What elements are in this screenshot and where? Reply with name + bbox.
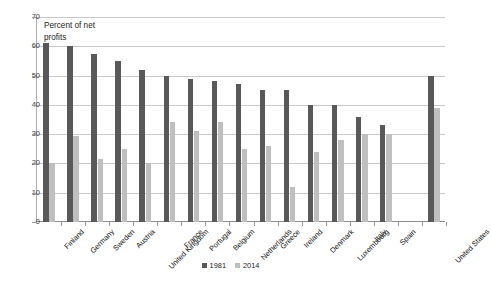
bar-2014 <box>314 152 319 222</box>
y-axis-tick-label: 20 <box>14 159 40 167</box>
x-axis-tick-mark <box>133 222 134 226</box>
x-axis-tick-mark <box>422 222 423 226</box>
y-axis-tick-mark <box>32 163 36 164</box>
x-axis-tick-mark <box>254 222 255 226</box>
x-axis-label-italy: Italy <box>372 228 387 243</box>
bar-1981 <box>67 46 72 222</box>
bar-1981 <box>236 84 241 222</box>
bars-layer <box>37 17 445 222</box>
x-axis-tick-mark <box>157 222 158 226</box>
bar-group <box>205 17 229 222</box>
bar-group <box>37 17 61 222</box>
y-axis-tick-label: 70 <box>14 13 40 21</box>
y-axis-tick-mark <box>32 105 36 106</box>
bar-group <box>254 17 278 222</box>
bar-group <box>422 17 446 222</box>
legend-swatch-icon <box>235 263 240 268</box>
y-axis-tick-label: 30 <box>14 130 40 138</box>
y-axis-tick-label: 60 <box>14 42 40 50</box>
x-axis-tick-mark <box>374 222 375 226</box>
x-axis-label-luxembourg: Luxembourg <box>357 228 391 262</box>
x-axis-tick-mark <box>109 222 110 226</box>
y-axis-tick-mark <box>32 222 36 223</box>
bar-group <box>85 17 109 222</box>
bar-1981 <box>139 70 144 222</box>
x-axis-label-austria: Austria <box>135 228 157 250</box>
legend-item-1981: 1981 <box>202 262 226 269</box>
bar-2014 <box>386 134 391 222</box>
x-axis-label-netherlands: Netherlands <box>260 228 293 261</box>
x-axis-tick-mark <box>181 222 182 226</box>
x-axis-label-finland: Finland <box>63 228 85 250</box>
x-axis-tick-mark <box>446 222 447 226</box>
x-axis-tick-mark <box>398 222 399 226</box>
x-axis-tick-mark <box>350 222 351 226</box>
bar-2014 <box>434 108 439 222</box>
y-axis-tick-mark <box>32 193 36 194</box>
bar-2014 <box>266 146 271 222</box>
y-axis-tick-label: 50 <box>14 72 40 80</box>
bar-1981 <box>260 90 265 222</box>
bar-1981 <box>380 125 385 222</box>
bar-group <box>61 17 85 222</box>
legend: 19812014 <box>0 262 461 269</box>
y-axis-tick-mark <box>32 76 36 77</box>
bar-1981 <box>91 54 96 222</box>
x-axis-tick-mark <box>205 222 206 226</box>
x-axis-label-belgium: Belgium <box>232 228 256 252</box>
bar-1981 <box>284 90 289 222</box>
x-axis-label-denmark: Denmark <box>329 228 355 254</box>
bar-group <box>278 17 302 222</box>
legend-label: 2014 <box>243 262 259 269</box>
bar-group <box>350 17 374 222</box>
bar-1981 <box>188 79 193 223</box>
x-axis-label-united-states: United States <box>454 228 491 265</box>
bar-2014 <box>338 140 343 222</box>
x-axis-label-germany: Germany <box>89 228 116 255</box>
bar-2014 <box>242 149 247 222</box>
bar-2014 <box>49 163 54 222</box>
bar-group <box>326 17 350 222</box>
x-axis-tick-mark <box>302 222 303 226</box>
bar-2014 <box>194 131 199 222</box>
bar-1981 <box>356 117 361 222</box>
bar-2014 <box>146 163 151 222</box>
bar-1981 <box>212 81 217 222</box>
bar-group <box>398 17 422 222</box>
y-axis-tick-mark <box>32 46 36 47</box>
bar-group <box>157 17 181 222</box>
bar-1981 <box>332 105 337 222</box>
bar-group <box>181 17 205 222</box>
legend-swatch-icon <box>202 263 207 268</box>
bar-2014 <box>122 149 127 222</box>
y-axis-tick-label: 40 <box>14 101 40 109</box>
x-axis-label-spain: Spain <box>398 228 417 247</box>
bar-1981 <box>164 76 169 222</box>
bar-group <box>374 17 398 222</box>
x-axis-tick-mark <box>85 222 86 226</box>
bar-2014 <box>73 136 78 222</box>
bar-1981 <box>428 76 433 222</box>
x-axis-label-sweden: Sweden <box>112 228 136 252</box>
bar-2014 <box>170 122 175 222</box>
bar-2014 <box>362 134 367 222</box>
bar-2014 <box>290 187 295 222</box>
y-axis-tick-label: 0 <box>14 218 40 226</box>
x-axis-label-france: France <box>183 228 205 250</box>
bar-2014 <box>98 159 103 222</box>
legend-label: 1981 <box>210 262 226 269</box>
x-axis-tick-mark <box>229 222 230 226</box>
y-axis-tick-label: 10 <box>14 189 40 197</box>
bar-1981 <box>43 43 48 222</box>
bar-group <box>109 17 133 222</box>
y-axis-tick-mark <box>32 17 36 18</box>
bar-2014 <box>218 122 223 222</box>
bar-1981 <box>308 105 313 222</box>
y-axis-tick-mark <box>32 134 36 135</box>
x-axis-label-portugal: Portugal <box>208 228 233 253</box>
x-axis-tick-mark <box>326 222 327 226</box>
x-axis-tick-mark <box>61 222 62 226</box>
x-axis-tick-mark <box>278 222 279 226</box>
bar-group <box>133 17 157 222</box>
